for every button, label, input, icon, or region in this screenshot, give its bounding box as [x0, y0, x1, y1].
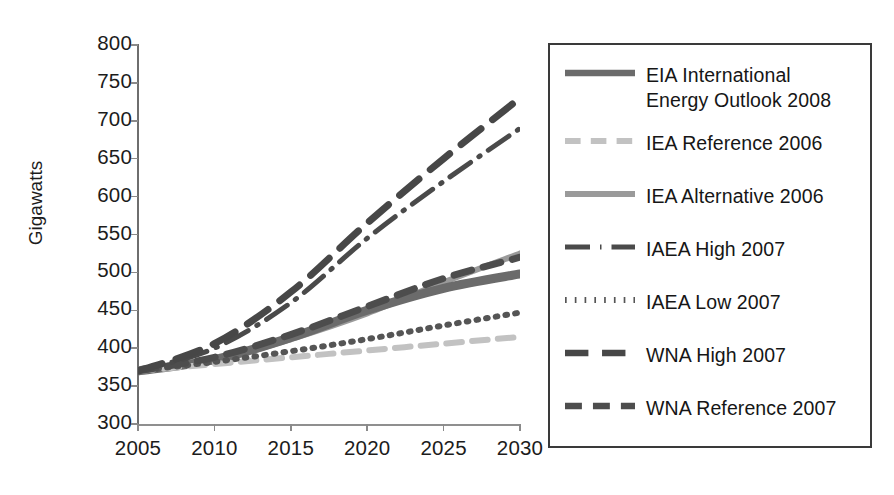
legend-swatch-icon [564, 134, 636, 154]
y-tick-label: 500 [76, 258, 132, 282]
y-tick-mark [131, 120, 138, 122]
y-tick-label: 600 [76, 183, 132, 207]
series-line [138, 98, 520, 371]
y-tick-mark [131, 310, 138, 312]
series-lines [138, 45, 520, 424]
y-tick-mark [131, 44, 138, 46]
legend-item[interactable]: IAEA Low 2007 [564, 290, 864, 315]
legend-swatch-icon [564, 66, 636, 86]
y-tick-mark [131, 385, 138, 387]
y-tick-label: 350 [76, 372, 132, 396]
legend-item[interactable]: IEA Reference 2006 [564, 131, 864, 156]
series-line [138, 128, 520, 371]
legend-item[interactable]: WNA High 2007 [564, 343, 864, 368]
y-tick-label: 800 [76, 31, 132, 55]
y-tick-mark [131, 234, 138, 236]
legend-swatch-icon [564, 187, 636, 207]
legend-swatch-icon [564, 399, 636, 419]
y-tick-mark [131, 272, 138, 274]
legend-item[interactable]: IAEA High 2007 [564, 237, 864, 262]
x-tick-mark [290, 424, 292, 431]
legend-swatch-icon [564, 346, 636, 366]
legend-swatch-icon [564, 293, 636, 313]
plot-area [138, 45, 520, 424]
x-tick-mark [366, 424, 368, 431]
y-tick-label: 700 [76, 107, 132, 131]
legend-label: IEA Alternative 2006 [636, 184, 824, 209]
legend-item[interactable]: IEA Alternative 2006 [564, 184, 864, 209]
y-axis-tick-labels: 300350400450500550600650700750800 [60, 0, 132, 495]
y-tick-label: 550 [76, 221, 132, 245]
y-tick-mark [131, 196, 138, 198]
legend-label: IAEA Low 2007 [636, 290, 781, 315]
y-tick-label: 450 [76, 296, 132, 320]
x-axis-line [137, 424, 521, 426]
x-tick-mark [137, 424, 139, 431]
y-tick-label: 400 [76, 334, 132, 358]
y-tick-mark [131, 347, 138, 349]
legend-label: WNA Reference 2007 [636, 396, 836, 421]
legend-label: IEA Reference 2006 [636, 131, 822, 156]
legend-label: IAEA High 2007 [636, 237, 785, 262]
y-axis-title: Gigawatts [25, 123, 47, 283]
legend-label: EIA International Energy Outlook 2008 [636, 63, 831, 113]
x-tick-label: 2030 [475, 436, 565, 460]
legend-label: WNA High 2007 [636, 343, 786, 368]
y-tick-label: 650 [76, 145, 132, 169]
y-tick-label: 750 [76, 69, 132, 93]
y-tick-mark [131, 82, 138, 84]
legend: EIA International Energy Outlook 2008IEA… [548, 43, 872, 448]
chart-root: 300350400450500550600650700750800 Gigawa… [0, 0, 894, 495]
legend-swatch-icon [564, 240, 636, 260]
legend-item[interactable]: EIA International Energy Outlook 2008 [564, 63, 864, 113]
x-tick-mark [519, 424, 521, 431]
x-tick-mark [214, 424, 216, 431]
legend-item[interactable]: WNA Reference 2007 [564, 396, 864, 421]
y-tick-label: 300 [76, 410, 132, 434]
x-tick-mark [443, 424, 445, 431]
y-tick-mark [131, 158, 138, 160]
